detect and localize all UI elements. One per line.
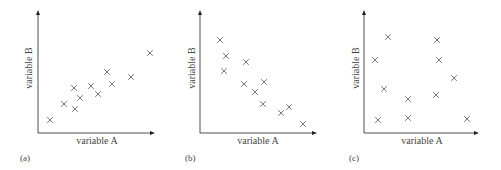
x-marker-icon [405, 115, 411, 121]
x-marker-icon [464, 116, 470, 122]
x-axis-label-c: variable A [401, 135, 442, 146]
x-axis-arrow-icon [474, 131, 479, 135]
x-marker-icon [436, 57, 442, 63]
x-marker-icon [451, 75, 457, 81]
scatter-panel-c: variable B variable A (c) [0, 0, 501, 170]
y-axis-arrow-icon [362, 10, 366, 15]
x-marker-icon [405, 96, 411, 102]
x-marker-icon [434, 37, 440, 43]
x-marker-icon [433, 92, 439, 98]
x-marker-icon [375, 117, 381, 123]
y-axis-label-c: variable B [350, 47, 361, 88]
panel-tag-c: (c) [349, 153, 359, 163]
x-marker-icon [372, 57, 378, 63]
x-marker-icon [385, 34, 391, 40]
x-marker-icon [381, 86, 387, 92]
